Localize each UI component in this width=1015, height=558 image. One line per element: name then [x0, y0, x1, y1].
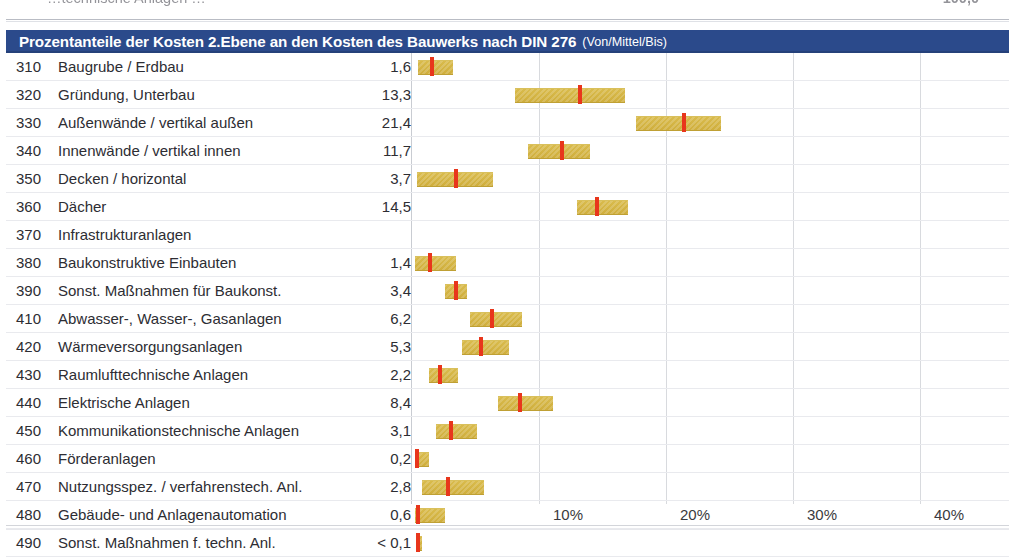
table-row[interactable]: 360Dächer14,5	[6, 193, 1009, 221]
row-value: 2,2	[306, 361, 411, 388]
row-code: 370	[16, 221, 41, 248]
row-code: 350	[16, 165, 41, 192]
row-label: Gründung, Unterbau	[58, 81, 195, 108]
table-row[interactable]: 470Nutzungsspez. / verfahrenstech. Anl.2…	[6, 473, 1009, 501]
row-value: < 0,1	[306, 529, 411, 556]
mean-marker	[490, 309, 494, 328]
table-row[interactable]: 310Baugrube / Erdbau1,6	[6, 53, 1009, 81]
row-label: Dächer	[58, 193, 106, 220]
row-value: 13,3	[306, 81, 411, 108]
row-label: Abwasser-, Wasser-, Gasanlagen	[58, 305, 282, 332]
mean-marker	[518, 393, 522, 412]
remnant-value: 100,0	[943, 0, 979, 6]
row-label: Nutzungsspez. / verfahrenstech. Anl.	[58, 473, 302, 500]
mean-marker	[430, 57, 434, 76]
range-bar	[515, 88, 625, 103]
row-value: 1,6	[306, 53, 411, 80]
table-row[interactable]: 370Infrastrukturanlagen	[6, 221, 1009, 249]
table-row[interactable]: 410Abwasser-, Wasser-, Gasanlagen6,2	[6, 305, 1009, 333]
row-label: Außenwände / vertikal außen	[58, 109, 253, 136]
row-value: 3,1	[306, 417, 411, 444]
range-bar	[422, 480, 484, 495]
range-bar	[498, 396, 553, 411]
range-bar	[470, 312, 522, 327]
row-label: Baukonstruktive Einbauten	[58, 249, 236, 276]
x-tick-label-10: 10%	[553, 506, 583, 523]
mean-marker	[479, 337, 483, 356]
row-code: 360	[16, 193, 41, 220]
row-code: 390	[16, 277, 41, 304]
cost-range-chart: 310Baugrube / Erdbau1,6320Gründung, Unte…	[6, 53, 1009, 530]
row-value: 3,4	[306, 277, 411, 304]
mean-marker	[415, 449, 419, 468]
row-code: 440	[16, 389, 41, 416]
divider-rule-lower	[6, 21, 1009, 22]
range-bar	[577, 200, 628, 215]
mean-marker	[428, 253, 432, 272]
table-row[interactable]: 420Wärmeversorgungsanlagen5,3	[6, 333, 1009, 361]
row-code: 430	[16, 361, 41, 388]
range-bar	[462, 340, 509, 355]
mean-marker	[446, 477, 450, 496]
x-tick-label-20: 20%	[680, 506, 710, 523]
axis-baseline	[6, 525, 1009, 526]
mean-marker	[454, 169, 458, 188]
row-label: Förderanlagen	[58, 445, 156, 472]
x-axis: 10%20%30%40%	[6, 504, 1009, 530]
table-row[interactable]: 460Förderanlagen0,2	[6, 445, 1009, 473]
table-row[interactable]: 490Sonst. Maßnahmen f. techn. Anl.< 0,1	[6, 529, 1009, 557]
table-row[interactable]: 390Sonst. Maßnahmen für Baukonst.3,4	[6, 277, 1009, 305]
mean-marker	[438, 365, 442, 384]
row-code: 410	[16, 305, 41, 332]
row-label: Elektrische Anlagen	[58, 389, 190, 416]
mean-marker	[454, 281, 458, 300]
table-row[interactable]: 340Innenwände / vertikal innen11,7	[6, 137, 1009, 165]
row-value: 3,7	[306, 165, 411, 192]
range-bar	[415, 256, 457, 271]
row-value: 0,2	[306, 445, 411, 472]
row-code: 420	[16, 333, 41, 360]
row-label: Sonst. Maßnahmen für Baukonst.	[58, 277, 281, 304]
row-label: Innenwände / vertikal innen	[58, 137, 241, 164]
table-row[interactable]: 320Gründung, Unterbau13,3	[6, 81, 1009, 109]
row-label: Infrastrukturanlagen	[58, 221, 191, 248]
table-row[interactable]: 440Elektrische Anlagen8,4	[6, 389, 1009, 417]
remnant-label: …technische Anlagen …	[47, 0, 206, 6]
row-code: 450	[16, 417, 41, 444]
table-title-bar: Prozentanteile der Kosten 2.Ebene an den…	[6, 30, 1009, 53]
row-value: 11,7	[306, 137, 411, 164]
chart-rows: 310Baugrube / Erdbau1,6320Gründung, Unte…	[6, 53, 1009, 557]
row-value: 2,8	[306, 473, 411, 500]
table-row[interactable]: 330Außenwände / vertikal außen21,4	[6, 109, 1009, 137]
table-row[interactable]: 380Baukonstruktive Einbauten1,4	[6, 249, 1009, 277]
row-code: 330	[16, 109, 41, 136]
mean-marker	[682, 113, 686, 132]
table-row[interactable]: 430Raumlufttechnische Anlagen2,2	[6, 361, 1009, 389]
row-code: 380	[16, 249, 41, 276]
mean-marker	[578, 85, 582, 104]
row-label: Decken / horizontal	[58, 165, 186, 192]
row-code: 470	[16, 473, 41, 500]
row-label: Wärmeversorgungsanlagen	[58, 333, 242, 360]
row-code: 490	[16, 529, 41, 556]
table-row[interactable]: 450Kommunikationstechnische Anlagen3,1	[6, 417, 1009, 445]
page-title: Prozentanteile der Kosten 2.Ebene an den…	[19, 33, 576, 50]
row-code: 460	[16, 445, 41, 472]
row-code: 340	[16, 137, 41, 164]
range-bar	[429, 368, 458, 383]
divider-rule-upper	[6, 19, 1009, 20]
row-code: 320	[16, 81, 41, 108]
row-value: 1,4	[306, 249, 411, 276]
row-value: 8,4	[306, 389, 411, 416]
row-label: Kommunikationstechnische Anlagen	[58, 417, 299, 444]
axis-baseline-shadow	[6, 529, 1009, 530]
mean-marker	[449, 421, 453, 440]
row-value: 14,5	[306, 193, 411, 220]
range-bar	[528, 144, 590, 159]
previous-table-remnant: …technische Anlagen … 100,0	[0, 0, 1015, 22]
range-bar	[636, 116, 721, 131]
table-row[interactable]: 350Decken / horizontal3,7	[6, 165, 1009, 193]
row-label: Raumlufttechnische Anlagen	[58, 361, 248, 388]
mean-marker	[560, 141, 564, 160]
mean-marker	[595, 197, 599, 216]
